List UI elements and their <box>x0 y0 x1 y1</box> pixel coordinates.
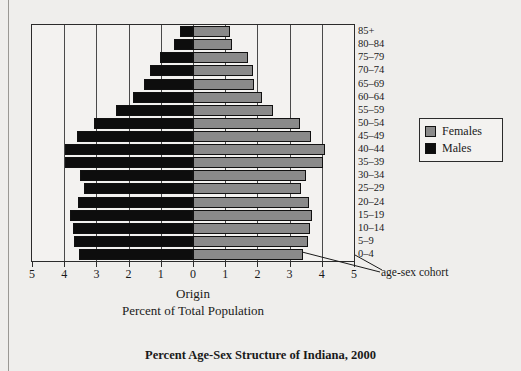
age-cohort-label: 50–54 <box>358 117 404 128</box>
bar-male <box>73 223 193 234</box>
bar-row <box>32 235 354 248</box>
bar-female <box>193 26 230 37</box>
bar-row <box>32 117 354 130</box>
x-axis-tick-label: 1 <box>215 267 235 281</box>
bar-female <box>193 223 310 234</box>
figure-title: Percent Age-Sex Structure of Indiana, 20… <box>0 348 521 363</box>
bar-row <box>32 169 354 182</box>
bar-female <box>193 39 232 50</box>
age-cohort-label: 45–49 <box>358 130 404 141</box>
bar-male <box>133 92 193 103</box>
x-axis-tick-label: 3 <box>86 267 106 281</box>
bar-row <box>32 222 354 235</box>
bar-female <box>193 236 308 247</box>
bar-male <box>74 236 193 247</box>
legend-swatch-females-icon <box>425 126 436 137</box>
bar-male <box>70 210 193 221</box>
bar-row <box>32 25 354 38</box>
bar-male <box>94 118 193 129</box>
chart-plot-area <box>31 24 355 262</box>
bar-male <box>84 183 193 194</box>
bar-female <box>193 52 248 63</box>
bar-female <box>193 170 306 181</box>
bar-row <box>32 182 354 195</box>
age-cohort-label: 30–34 <box>358 169 404 180</box>
bar-female <box>193 210 312 221</box>
bar-row <box>32 130 354 143</box>
annotation-age-sex-cohort: age-sex cohort <box>381 266 448 279</box>
x-axis-tick-label: 2 <box>247 267 267 281</box>
bar-row <box>32 51 354 64</box>
bar-female <box>193 183 301 194</box>
bar-female <box>193 65 253 76</box>
bar-male <box>174 39 193 50</box>
age-cohort-label: 5–9 <box>358 235 404 246</box>
x-axis-tick-label: 5 <box>22 267 42 281</box>
age-cohort-label: 35–39 <box>358 156 404 167</box>
bar-male <box>65 157 193 168</box>
chart-bars <box>32 25 354 261</box>
chart-legend: Females Males <box>419 118 503 162</box>
age-cohort-label: 60–64 <box>358 91 404 102</box>
x-axis-tick-label: 4 <box>54 267 74 281</box>
bar-female <box>193 197 309 208</box>
bar-row <box>32 104 354 117</box>
x-axis-tick-label: 1 <box>151 267 171 281</box>
bar-female <box>193 144 325 155</box>
bar-male <box>78 197 193 208</box>
bar-male <box>79 249 193 260</box>
age-cohort-label: 20–24 <box>358 196 404 207</box>
bar-row <box>32 38 354 51</box>
legend-label-females: Females <box>442 125 482 138</box>
bar-female <box>193 157 323 168</box>
legend-item-males: Males <box>425 140 497 157</box>
bar-male <box>160 52 193 63</box>
bar-row <box>32 143 354 156</box>
age-cohort-label: 65–69 <box>358 78 404 89</box>
x-axis-caption: Percent of Total Population <box>31 303 355 319</box>
age-cohort-label: 75–79 <box>358 51 404 62</box>
bar-row <box>32 91 354 104</box>
bar-male <box>150 65 193 76</box>
age-cohort-labels: 85+80–8475–7970–7465–6960–6455–5950–5445… <box>358 24 404 262</box>
bar-male <box>116 105 193 116</box>
bar-row <box>32 209 354 222</box>
age-cohort-label: 85+ <box>358 25 404 36</box>
legend-item-females: Females <box>425 123 497 140</box>
bar-row <box>32 78 354 91</box>
age-cohort-label: 40–44 <box>358 143 404 154</box>
bar-female <box>193 105 273 116</box>
origin-caption: Origin <box>31 286 355 302</box>
bar-male <box>80 170 193 181</box>
bar-male <box>77 131 193 142</box>
x-axis-tick-label: 3 <box>280 267 300 281</box>
age-cohort-label: 55–59 <box>358 104 404 115</box>
age-cohort-label: 70–74 <box>358 64 404 75</box>
bar-row <box>32 156 354 169</box>
bar-male <box>180 26 193 37</box>
bar-female <box>193 131 311 142</box>
bar-female <box>193 92 262 103</box>
legend-label-males: Males <box>442 142 471 155</box>
bar-male <box>65 144 193 155</box>
bar-row <box>32 196 354 209</box>
bar-female <box>193 249 303 260</box>
age-cohort-label: 80–84 <box>358 38 404 49</box>
x-axis-tick-label: 0 <box>183 267 203 281</box>
age-cohort-label: 15–19 <box>358 209 404 220</box>
age-cohort-label: 10–14 <box>358 222 404 233</box>
age-cohort-label: 25–29 <box>358 182 404 193</box>
legend-swatch-males-icon <box>425 143 436 154</box>
bar-male <box>144 79 193 90</box>
bar-female <box>193 79 254 90</box>
bar-female <box>193 118 300 129</box>
population-pyramid-figure: 54321012345 85+80–8475–7970–7465–6960–64… <box>0 0 521 371</box>
bar-row <box>32 64 354 77</box>
x-axis-tick-label: 2 <box>119 267 139 281</box>
